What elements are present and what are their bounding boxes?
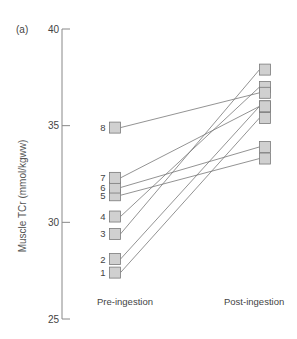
pre-marker xyxy=(110,228,121,239)
post-marker xyxy=(260,153,271,164)
subject-number-label: 7 xyxy=(100,172,105,183)
subject-number-label: 1 xyxy=(100,267,105,278)
x-category-label-post: Post-ingestion xyxy=(224,296,284,307)
y-tick-label: 40 xyxy=(48,24,60,35)
subject-number-label: 3 xyxy=(100,228,105,239)
post-marker xyxy=(260,101,271,112)
post-marker xyxy=(260,87,271,98)
subject-line xyxy=(121,159,260,196)
y-tick-label: 25 xyxy=(48,314,60,325)
subject-line xyxy=(121,87,260,217)
subject-number-label: 6 xyxy=(100,182,105,193)
y-tick-label: 35 xyxy=(48,120,60,131)
subject-number-label: 8 xyxy=(100,122,105,133)
subject-number-label: 4 xyxy=(100,211,105,222)
x-category-label-pre: Pre-ingestion xyxy=(97,296,153,307)
pre-marker xyxy=(110,254,121,265)
subject-line xyxy=(121,106,260,259)
post-marker xyxy=(260,64,271,75)
chart-plot-area: 2530354012345678 xyxy=(0,0,297,339)
subject-line xyxy=(121,118,260,273)
post-marker xyxy=(260,112,271,123)
pre-marker xyxy=(110,211,121,222)
pre-marker xyxy=(110,122,121,133)
subject-line xyxy=(121,93,260,128)
subject-number-label: 2 xyxy=(100,254,105,265)
pre-marker xyxy=(110,172,121,183)
pre-marker xyxy=(110,267,121,278)
post-marker xyxy=(260,141,271,152)
y-tick-label: 30 xyxy=(48,217,60,228)
